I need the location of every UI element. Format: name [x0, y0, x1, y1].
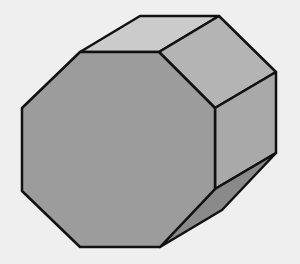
front-octagon-face — [22, 52, 215, 247]
octagonal-prism-figure — [0, 0, 300, 264]
